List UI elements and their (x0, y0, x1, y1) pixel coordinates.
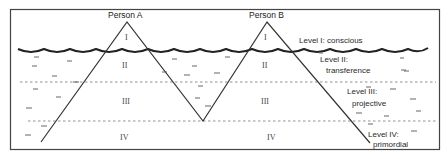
level-2-label: Level II: (320, 55, 348, 64)
level-3-sublabel: projective (352, 99, 386, 108)
person-b-level-3: III (261, 97, 269, 106)
person-b-level-1: I (264, 33, 267, 42)
person-a-level-4: IV (120, 133, 128, 142)
level-2-sublabel: transference (326, 66, 370, 75)
level-1-label: Level I: conscious (299, 36, 363, 45)
level-4-sublabel: primordial (373, 140, 408, 149)
person-a-level-3: III (122, 97, 130, 106)
waterline-wave (18, 48, 428, 52)
level-3-label: Level III: (347, 87, 377, 96)
person-b-level-2: II (262, 61, 267, 70)
person-a-level-2: II (122, 61, 127, 70)
iceberg-diagram: Person A Person B I II III IV I II III I… (0, 0, 448, 159)
level-4-label: Level IV: (368, 130, 399, 139)
person-a-label: Person A (108, 10, 143, 20)
frame-border (11, 10, 440, 150)
person-a-level-1: I (125, 33, 128, 42)
person-b-level-4: IV (267, 133, 275, 142)
person-b-label: Person B (249, 10, 284, 20)
